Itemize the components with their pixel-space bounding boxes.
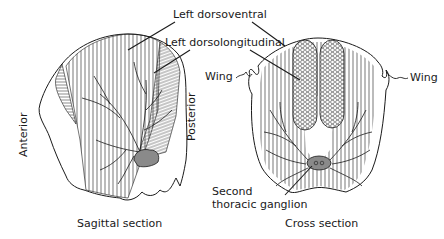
label-ganglion-line1: Second [212, 186, 252, 198]
label-ganglion-line2: thoracic ganglion [212, 199, 307, 211]
cross-dorsolongitudinal-left [293, 40, 317, 130]
label-wing-right: Wing [410, 72, 438, 84]
caption-cross-section: Cross section [285, 218, 358, 230]
sagittal-section [39, 34, 187, 200]
cross-dorsolongitudinal-right [320, 40, 344, 128]
label-left-dorsoventral: Left dorsoventral [173, 9, 267, 21]
label-posterior: Posterior [186, 92, 198, 141]
label-left-dorsolongitudinal: Left dorsolongitudinal [165, 37, 285, 49]
sagittal-ganglion [134, 149, 159, 166]
label-anterior: Anterior [18, 113, 30, 157]
label-wing-left: Wing [205, 71, 233, 83]
caption-sagittal-section: Sagittal section [77, 218, 162, 230]
cross-section [236, 38, 408, 193]
